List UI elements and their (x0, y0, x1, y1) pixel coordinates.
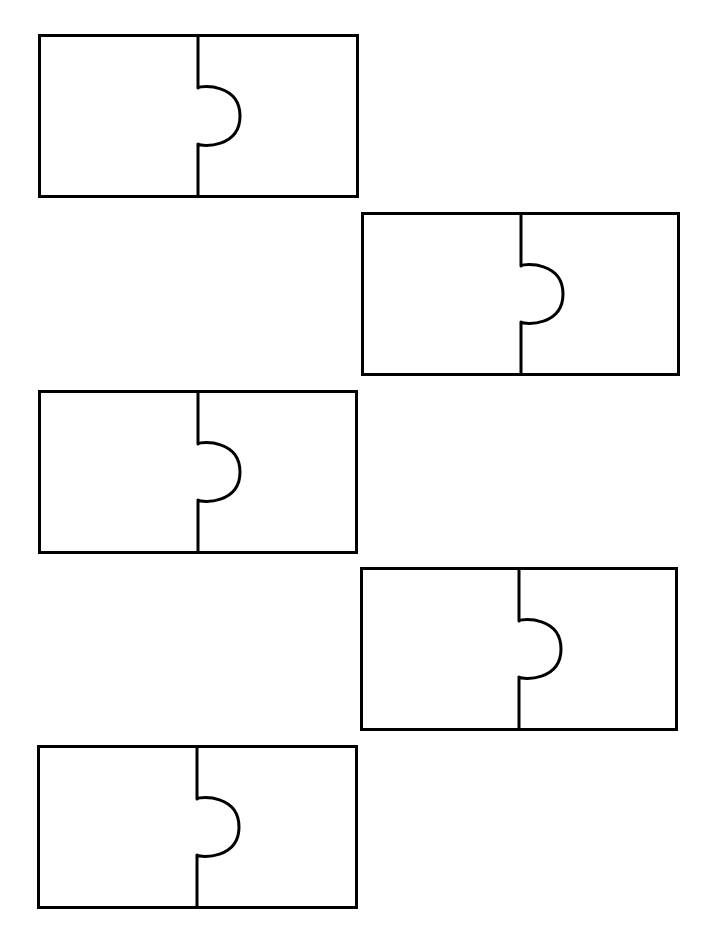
puzzle-pair-4 (360, 567, 678, 731)
puzzle-pair-1 (38, 34, 359, 198)
puzzle-pair-5 (37, 745, 358, 909)
puzzle-pair-3 (38, 390, 358, 554)
puzzle-pair-outline-icon (360, 567, 678, 731)
puzzle-pair-outline-icon (37, 745, 358, 909)
puzzle-pair-outline-icon (38, 390, 358, 554)
puzzle-pair-outline-icon (38, 34, 359, 198)
puzzle-pair-2 (361, 212, 680, 376)
puzzle-worksheet-page (0, 0, 723, 952)
puzzle-pair-outline-icon (361, 212, 680, 376)
